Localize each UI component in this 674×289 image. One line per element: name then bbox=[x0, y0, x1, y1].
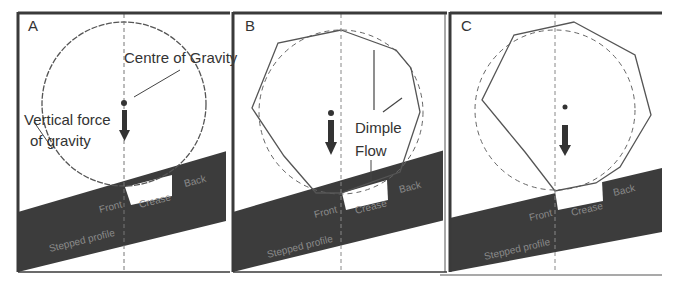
gravity-arrow-shaft-c bbox=[562, 125, 568, 147]
ball-reference-outline-c bbox=[475, 30, 635, 190]
dimple-flow-pointer-2 bbox=[383, 98, 402, 112]
centre-of-gravity-dot-a bbox=[121, 100, 127, 106]
slope-b bbox=[233, 150, 445, 272]
cog-pointer-line bbox=[134, 70, 180, 97]
gravity-arrow-shaft-a bbox=[122, 110, 127, 132]
vertical-force-label-line2: of gravity bbox=[30, 132, 91, 149]
gravity-arrow-shaft-b bbox=[328, 120, 334, 144]
centre-of-gravity-label: Centre of Gravity bbox=[124, 49, 238, 66]
panel-c: Front Crease Back Stepped profile C bbox=[440, 12, 662, 275]
gravity-arrow-head-a bbox=[119, 130, 130, 141]
centre-of-gravity-dot-b bbox=[328, 110, 334, 116]
gravity-arrow-head-b bbox=[325, 142, 337, 155]
gravity-arrow-head-c bbox=[559, 145, 571, 156]
centre-of-gravity-dot-c bbox=[563, 105, 568, 110]
panel-b: Front Crease Back Stepped profile B Dimp… bbox=[233, 12, 447, 272]
dimple-flow-label-line2: Flow bbox=[355, 142, 387, 159]
panel-label-c: C bbox=[461, 17, 472, 34]
panel-label-a: A bbox=[28, 17, 38, 34]
panel-label-b: B bbox=[245, 17, 255, 34]
vertical-force-label-line1: Vertical force bbox=[24, 111, 111, 128]
gravity-diagram-figure: Front Crease Back Stepped profile A Cent… bbox=[0, 0, 674, 289]
panel-a: Front Crease Back Stepped profile A Cent… bbox=[18, 12, 238, 272]
dimple-flow-label-line1: Dimple bbox=[355, 119, 402, 136]
